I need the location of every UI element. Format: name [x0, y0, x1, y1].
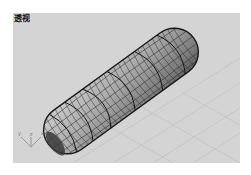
viewport-title[interactable]: 透视: [14, 14, 30, 24]
axis-indicator-icon: y z x: [16, 125, 46, 153]
scene-canvas[interactable]: [13, 13, 240, 163]
svg-text:x: x: [41, 130, 44, 136]
svg-text:z: z: [30, 131, 33, 137]
perspective-viewport[interactable]: 透视 y z x: [13, 13, 240, 163]
capsule-object: [34, 19, 208, 163]
svg-text:y: y: [18, 130, 21, 137]
